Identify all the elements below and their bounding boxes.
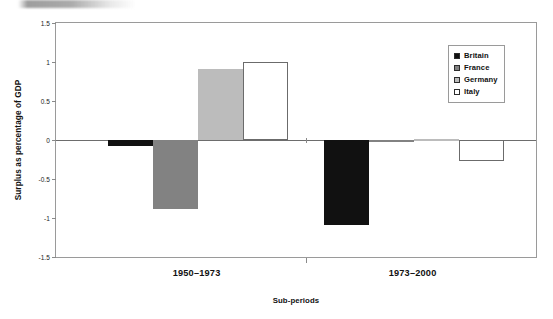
y-axis-title: Surplus as percentage of GDP: [14, 80, 23, 201]
legend-item-italy: Italy: [454, 86, 498, 98]
legend-swatch-britain: [454, 53, 460, 59]
legend-swatch-italy: [454, 89, 460, 95]
bar-germany-2: [414, 139, 459, 141]
legend-label: Germany: [464, 76, 498, 84]
x-axis-category-tick: [306, 258, 307, 263]
legend-label: Italy: [464, 88, 480, 96]
x-axis-title: Sub-periods: [273, 296, 320, 305]
legend-item-britain: Britain: [454, 50, 498, 62]
bar-germany-1: [198, 69, 243, 140]
y-axis-tick: [52, 62, 56, 63]
y-axis-tick: [52, 23, 56, 24]
y-axis-tick: [52, 218, 56, 219]
bar-britain-2: [324, 140, 369, 225]
chart-figure: Surplus as percentage of GDP 1.510.50-0.…: [0, 0, 553, 319]
legend-swatch-france: [454, 65, 460, 71]
bar-france-1: [153, 140, 198, 209]
legend-swatch-germany: [454, 77, 460, 83]
y-axis-tick: [52, 179, 56, 180]
x-axis-tick: [306, 138, 307, 143]
y-axis-tick: [52, 140, 56, 141]
x-axis-category-label: 1950–1973: [173, 268, 221, 278]
y-axis-tick: [52, 257, 56, 258]
y-axis-tick-label: -1.5: [38, 254, 50, 261]
y-axis-tick-label: 1.5: [41, 20, 50, 27]
y-axis-tick: [52, 101, 56, 102]
legend-item-germany: Germany: [454, 74, 498, 86]
legend-item-france: France: [454, 62, 498, 74]
y-axis-tick-label: 0.5: [41, 98, 50, 105]
x-axis-category-label: 1973–2000: [389, 268, 437, 278]
bar-italy-2: [459, 140, 504, 161]
chart-legend: BritainFranceGermanyItaly: [448, 45, 505, 103]
legend-label: Britain: [464, 52, 489, 60]
bar-britain-1: [108, 140, 153, 146]
y-axis-tick-label: 0: [46, 137, 50, 144]
legend-label: France: [464, 64, 490, 72]
bar-italy-1: [243, 62, 288, 140]
bar-france-2: [369, 140, 414, 142]
y-axis-tick-label: -1: [44, 215, 50, 222]
scan-artifact-smudge: [18, 0, 136, 8]
y-axis-tick-label: 1: [46, 59, 50, 66]
y-axis-tick-label: -0.5: [38, 176, 50, 183]
